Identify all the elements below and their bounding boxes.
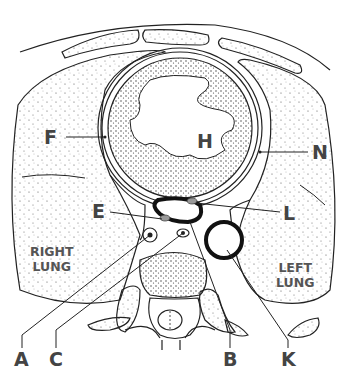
label-h: H xyxy=(197,132,213,151)
label-k: K xyxy=(281,350,296,369)
label-left-lung: LEFT LUNG xyxy=(276,260,314,290)
label-f: F xyxy=(44,128,57,147)
label-a: A xyxy=(14,350,29,369)
label-e: E xyxy=(92,202,105,221)
label-c: C xyxy=(49,350,63,369)
thorax-cross-section-drawing xyxy=(0,0,347,391)
label-b: B xyxy=(223,350,237,369)
label-right-lung: RIGHT LUNG xyxy=(30,244,74,274)
label-n: N xyxy=(312,143,328,162)
label-l: L xyxy=(283,204,295,223)
